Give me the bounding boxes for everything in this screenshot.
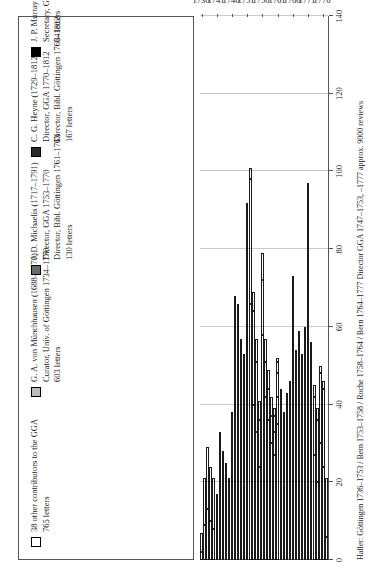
bar-segment-heyne — [307, 214, 309, 261]
legend-line-4: 167 letters — [64, 17, 76, 143]
legend-label-murray: J. P. Murray (1726–1776) Secretary, GdW … — [29, 0, 64, 42]
bar-segment-heyne — [280, 397, 282, 409]
bar-segment-murray — [298, 331, 300, 354]
bar-segment-michaelis — [255, 339, 257, 362]
legend-swatch-michaelis — [31, 265, 41, 275]
legend-swatch-heyne — [31, 147, 41, 157]
year-tick-1776 — [323, 14, 324, 17]
value-tick-label-140: 140 — [334, 10, 344, 23]
year-tick-1741 — [217, 14, 218, 17]
legend-item-michaelis: J. D. Michaelis (1717–1791) Director, GG… — [29, 157, 76, 275]
legend-swatch-other-contributors — [31, 537, 41, 547]
value-tick-40 — [329, 404, 333, 405]
year-tick-1756 — [262, 14, 263, 17]
rotated-figure-canvas: 38 other contributors to the GGA 765 let… — [0, 0, 377, 580]
bar-series-layer — [200, 16, 328, 560]
value-axis: 020406080100120140 — [329, 16, 351, 560]
value-tick-120 — [329, 93, 333, 94]
value-tick-label-120: 120 — [334, 87, 344, 100]
bar-segment-heyne — [276, 362, 278, 374]
legend-item-murray: J. P. Murray (1726–1776) Secretary, GdW … — [29, 56, 64, 57]
year-tick-label-1776: 1776 — [314, 0, 331, 5]
year-axis: 173617411746175117561761176617711776 — [200, 0, 328, 14]
bar-segment-michaelis — [264, 339, 266, 362]
bar-segment-michaelis — [261, 253, 263, 280]
bar-segment-murray — [280, 389, 282, 397]
bar-segment-murray — [310, 342, 312, 358]
plot-area — [200, 16, 328, 560]
year-tick-1771 — [308, 14, 309, 17]
legend-item-munchhausen: G. A. von Münchhausen (1688–1770) Curato… — [29, 275, 64, 397]
bar-segment-michaelis — [267, 370, 269, 389]
value-tick-20 — [329, 481, 333, 482]
bar-segment-heyne — [292, 296, 294, 319]
legend-label-other-contributors: 38 other contributors to the GGA 765 let… — [29, 419, 52, 532]
bar-segment-murray — [313, 385, 315, 397]
year-tick-1746 — [232, 14, 233, 17]
value-tick-label-20: 20 — [334, 478, 344, 487]
legend-item-other-contributors: 38 other contributors to the GGA 765 let… — [29, 397, 52, 547]
year-tick-label-1756: 1756 — [253, 0, 270, 5]
legend-line-2: Secretary, GdW Göttingen 1762–1770 — [41, 0, 53, 42]
legend-swatch-murray — [31, 47, 41, 57]
value-tick-label-60: 60 — [334, 323, 344, 332]
legend-line-1: J. P. Murray (1726–1776) — [29, 0, 41, 42]
value-tick-0 — [329, 559, 333, 560]
legend-line-1: 38 other contributors to the GGA — [29, 419, 41, 532]
year-tick-1761 — [278, 14, 279, 17]
bar-segment-murray — [322, 381, 324, 389]
bar-segment-munchhausen — [307, 280, 309, 319]
legend-swatch-munchhausen — [31, 387, 41, 397]
value-tick-label-100: 100 — [334, 165, 344, 178]
bar-segment-munchhausen — [249, 179, 251, 303]
year-tick-1736 — [202, 14, 203, 17]
bar-segment-heyne — [322, 389, 324, 467]
bar-segment-murray — [276, 358, 278, 362]
figure-caption: Haller: Göttingen 1736–1753 / Bern 1753–… — [356, 0, 365, 560]
year-tick-label-1736: 1736 — [192, 0, 209, 5]
bar-segment-michaelis — [307, 261, 309, 280]
year-tick-1766 — [293, 14, 294, 17]
value-tick-60 — [329, 326, 333, 327]
year-tick-1751 — [247, 14, 248, 17]
bar-segment-murray — [307, 183, 309, 214]
figure: 38 other contributors to the GGA 765 let… — [0, 0, 377, 580]
value-tick-label-40: 40 — [334, 400, 344, 409]
bar-segment-michaelis — [249, 168, 251, 180]
value-tick-80 — [329, 248, 333, 249]
value-tick-label-80: 80 — [334, 245, 344, 254]
value-tick-140 — [329, 15, 333, 16]
bar-segment-michaelis — [292, 319, 294, 346]
bar-segment-murray — [292, 276, 294, 295]
legend-line-2: 765 letters — [41, 419, 53, 532]
value-tick-label-0: 0 — [334, 558, 344, 562]
legend-item-heyne: C. G. Heyne (1729–1812) Director, GGA 17… — [29, 57, 76, 157]
bar-segment-munchhausen — [261, 280, 263, 334]
chart-legend: 38 other contributors to the GGA 765 let… — [18, 16, 194, 560]
value-tick-100 — [329, 170, 333, 171]
bar-segment-murray — [319, 366, 321, 374]
bar-segment-michaelis — [252, 292, 254, 311]
legend-line-3: 64 letters — [52, 0, 64, 42]
